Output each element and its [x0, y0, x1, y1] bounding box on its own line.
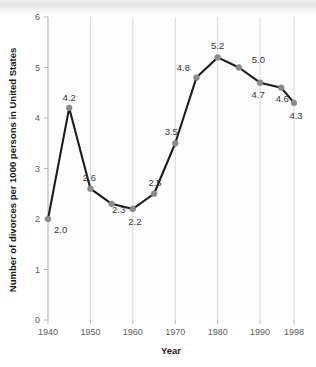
- marker-1980: [215, 55, 221, 61]
- value-label-1985: 5.0: [252, 54, 265, 65]
- y-axis-tick-labels: 0123456: [35, 12, 40, 325]
- y-axis-title: Number of divorces per 1000 persons in U…: [7, 48, 18, 292]
- marker-1970: [172, 140, 178, 146]
- x-tick-label-1998: 1998: [284, 327, 304, 337]
- x-tick-label-1950: 1950: [80, 327, 100, 337]
- y-tick-label-1: 1: [35, 265, 40, 275]
- value-label-1990: 4.7: [251, 89, 264, 100]
- value-label-1998: 4.3: [289, 110, 302, 121]
- x-tick-label-1940: 1940: [38, 327, 58, 337]
- y-tick-label-0: 0: [35, 315, 40, 325]
- value-label-1975: 4.8: [177, 62, 190, 73]
- value-label-1965: 2.5: [148, 177, 161, 188]
- marker-1965: [151, 191, 157, 197]
- x-axis-title: Year: [161, 345, 181, 356]
- value-label-1960: 2.2: [128, 216, 141, 227]
- value-label-1940: 2.0: [54, 224, 67, 235]
- value-label-1970: 3.5: [165, 126, 178, 137]
- x-tick-label-1990: 1990: [250, 327, 270, 337]
- chart-page: 0123456 1940195019601970198019901998 2.0…: [0, 0, 316, 367]
- y-tick-label-2: 2: [35, 214, 40, 224]
- marker-1985: [236, 65, 242, 71]
- value-label-1950: 2.6: [83, 172, 96, 183]
- value-label-1995: 4.6: [276, 93, 289, 104]
- divorce-rate-line-chart: 0123456 1940195019601970198019901998 2.0…: [0, 0, 316, 367]
- marker-1990: [257, 80, 263, 86]
- x-tick-label-1960: 1960: [123, 327, 143, 337]
- value-label-1955: 2.3: [112, 204, 125, 215]
- x-axis-tick-labels: 1940195019601970198019901998: [38, 327, 304, 337]
- marker-1945: [66, 105, 72, 111]
- marker-1995: [278, 85, 284, 91]
- x-axis-ticks: [48, 320, 294, 324]
- marker-1998: [291, 100, 297, 106]
- marker-1950: [88, 186, 94, 192]
- y-axis-ticks: [44, 17, 48, 320]
- x-tick-label-1970: 1970: [165, 327, 185, 337]
- y-tick-label-5: 5: [35, 63, 40, 73]
- marker-1975: [194, 75, 200, 81]
- marker-1940: [45, 216, 51, 222]
- value-label-1980: 5.2: [211, 40, 224, 51]
- y-tick-label-6: 6: [35, 12, 40, 22]
- y-tick-label-3: 3: [35, 164, 40, 174]
- value-label-1945: 4.2: [63, 92, 76, 103]
- x-tick-label-1980: 1980: [208, 327, 228, 337]
- y-tick-label-4: 4: [35, 113, 40, 123]
- marker-1960: [130, 206, 136, 212]
